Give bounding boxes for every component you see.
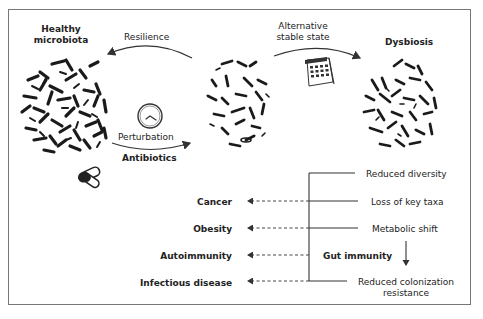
disease-dashed-arrows <box>248 201 309 281</box>
disease-infectious: Infectious disease <box>140 278 232 289</box>
resilience-arrow <box>108 46 192 58</box>
effect-loss-key-taxa: Loss of key taxa <box>371 197 444 208</box>
calendar-icon <box>305 57 334 86</box>
resilience-label: Resilience <box>124 32 169 43</box>
perturbation-label: Perturbation <box>118 132 174 143</box>
healthy-microbiota-cluster <box>22 60 106 152</box>
perturbation-arrow <box>112 143 190 150</box>
clock-icon <box>138 104 162 128</box>
effect-reduced-diversity: Reduced diversity <box>366 169 447 180</box>
effects-bracket <box>309 173 358 281</box>
disease-autoimmunity: Autoimmunity <box>140 251 232 262</box>
pill-capsule-icon <box>77 166 101 189</box>
dysbiosis-cluster <box>364 60 436 146</box>
alternative-state-label: Alternative stable state <box>268 21 338 43</box>
perturbed-microbiota-cluster <box>208 61 269 146</box>
effect-metabolic-shift: Metabolic shift <box>372 224 438 235</box>
alternative-state-arrow <box>274 48 360 58</box>
effect-reduced-colonization: Reduced colonization resistance <box>350 277 462 299</box>
dysbiosis-title: Dysbiosis <box>385 37 433 48</box>
disease-cancer: Cancer <box>140 197 232 208</box>
disease-obesity: Obesity <box>140 224 232 235</box>
healthy-title: Healthy microbiota <box>28 24 94 46</box>
antibiotics-label: Antibiotics <box>122 153 177 164</box>
gut-immunity-label: Gut immunity <box>323 251 392 262</box>
